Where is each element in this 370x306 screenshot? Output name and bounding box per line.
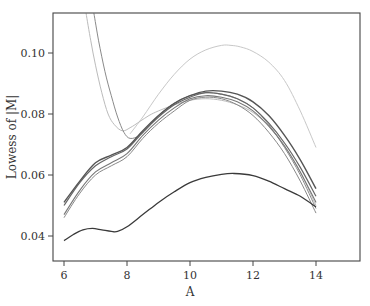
y-tick-label: 0.10 — [21, 47, 46, 60]
series-line-curve-5-steep — [94, 13, 316, 208]
y-axis-label: Lowess of |M| — [5, 95, 19, 180]
y-tick-label: 0.08 — [21, 108, 46, 121]
y-tick-label: 0.04 — [21, 230, 46, 243]
series-line-curve-6-steep-light — [86, 13, 316, 205]
x-tick-label: 12 — [246, 269, 260, 282]
y-tick-label: 0.06 — [21, 169, 46, 182]
series-line-curve-2 — [64, 93, 316, 206]
series-line-curve-3 — [64, 96, 316, 215]
plot-curves — [64, 13, 316, 240]
x-axis-ticks: 68101214 — [61, 261, 324, 282]
x-tick-label: 10 — [183, 269, 197, 282]
x-tick-label: 8 — [124, 269, 131, 282]
x-axis-label: A — [185, 285, 195, 299]
lowess-line-chart: 68101214 0.040.060.080.10 A Lowess of |M… — [0, 0, 370, 306]
y-axis-ticks: 0.040.060.080.10 — [21, 47, 54, 243]
x-tick-label: 6 — [61, 269, 68, 282]
series-line-curve-7-high-light — [130, 45, 316, 148]
plot-frame — [53, 13, 360, 261]
x-tick-label: 14 — [309, 269, 323, 282]
series-line-curve-8-low-dark — [64, 173, 316, 240]
series-line-curve-4 — [64, 97, 316, 218]
